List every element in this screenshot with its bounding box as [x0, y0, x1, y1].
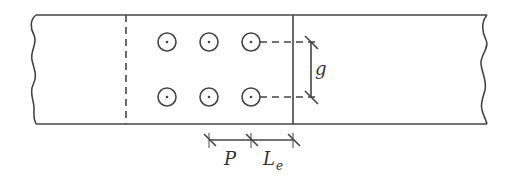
left-break-line	[31, 15, 36, 124]
right-break-line	[481, 15, 487, 124]
gauge-label: g	[315, 58, 327, 79]
bolted-connection-diagram: g P L e	[0, 0, 516, 179]
pitch-label: P	[223, 148, 237, 169]
end-distance-subscript: e	[276, 159, 283, 173]
bolt-group	[158, 33, 260, 106]
end-distance-label: L	[262, 148, 275, 169]
